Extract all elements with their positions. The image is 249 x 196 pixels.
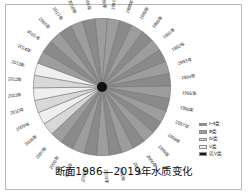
year-label: 1986年 — [101, 0, 106, 9]
legend-label: Ⅰ~Ⅱ类 — [209, 122, 220, 127]
legend: Ⅰ~Ⅱ类Ⅲ类Ⅳ类Ⅴ类劣Ⅴ类 — [199, 121, 243, 158]
legend-label: 劣Ⅴ类 — [209, 152, 222, 157]
year-label: 2012年 — [8, 77, 23, 83]
year-label: 2013年 — [11, 60, 26, 68]
legend-swatch — [199, 123, 207, 127]
legend-swatch — [199, 138, 207, 142]
chart-figure: 1986年1987年1988年1989年1990年1991年1992年1993年… — [5, 4, 242, 190]
year-label: 2010年 — [10, 108, 25, 117]
year-label: 1994年 — [181, 75, 196, 81]
year-label: 1996年 — [179, 106, 194, 114]
legend-swatch — [199, 130, 207, 134]
legend-row: Ⅲ类 — [199, 128, 243, 135]
legend-row: Ⅳ类 — [199, 136, 243, 143]
legend-swatch — [199, 152, 207, 156]
year-label: 1995年 — [182, 91, 197, 97]
pie-svg — [24, 9, 180, 165]
legend-swatch — [199, 145, 207, 149]
pie-hub — [97, 82, 107, 92]
year-label: 2011年 — [8, 93, 23, 99]
legend-label: Ⅳ类 — [209, 137, 218, 142]
legend-label: Ⅴ类 — [209, 145, 217, 150]
legend-row: Ⅰ~Ⅱ类 — [199, 121, 243, 128]
legend-row: Ⅴ类 — [199, 143, 243, 150]
pie-plot-area: 1986年1987年1988年1989年1990年1991年1992年1993年… — [6, 5, 198, 165]
legend-row: 劣Ⅴ类 — [199, 151, 243, 158]
year-label: 1993年 — [177, 58, 192, 67]
legend-label: Ⅲ类 — [209, 130, 217, 135]
chart-title: 断面1986—2019年水质变化 — [6, 163, 241, 178]
